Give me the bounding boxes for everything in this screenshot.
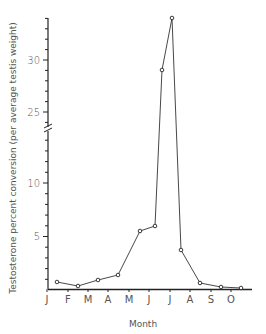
- data-point: [138, 229, 142, 233]
- data-line: [57, 18, 241, 288]
- x-tick-label-may: M: [125, 294, 134, 305]
- data-point: [76, 284, 80, 288]
- data-point: [153, 224, 157, 228]
- data-point: [170, 16, 174, 20]
- x-tick-label-feb: F: [65, 294, 71, 305]
- y-tick-label-30: 30: [27, 55, 40, 66]
- x-axis-title: Month: [129, 319, 157, 329]
- chart: 5 10 25 30 J F M A M J J A S O Month Tes…: [0, 0, 266, 334]
- x-tick-label-oct: O: [227, 294, 235, 305]
- data-point: [198, 281, 202, 285]
- data-point: [96, 278, 100, 282]
- y-tick-label-5: 5: [34, 231, 40, 242]
- x-tick-label-apr: A: [105, 294, 112, 305]
- y-ticks-lower: [43, 140, 48, 279]
- data-points: [55, 16, 243, 290]
- y-tick-label-25: 25: [27, 107, 40, 118]
- x-tick-label-aug: A: [187, 294, 194, 305]
- data-point: [179, 248, 183, 252]
- data-point: [219, 285, 223, 289]
- data-point: [160, 68, 164, 72]
- x-tick-label-jul: J: [168, 294, 172, 305]
- y-tick-label-10: 10: [27, 178, 40, 189]
- x-tick-label-mar: M: [84, 294, 93, 305]
- x-tick-label-jun: J: [147, 294, 151, 305]
- data-point: [55, 280, 59, 284]
- y-axis-title: Testosterone percent conversion (per ave…: [8, 22, 18, 295]
- y-ticks-upper: [43, 18, 48, 122]
- data-point: [239, 286, 243, 290]
- data-point: [116, 273, 120, 277]
- x-tick-label-jan: J: [45, 294, 49, 305]
- x-tick-label-sep: S: [208, 294, 214, 305]
